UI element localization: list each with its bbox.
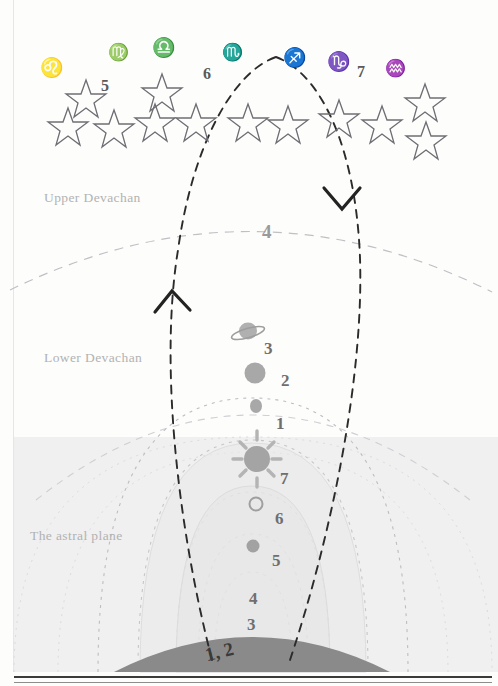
star [135, 104, 175, 141]
bottom-rule [14, 676, 492, 678]
upper-devachan-arc [10, 231, 492, 292]
star [362, 106, 402, 143]
zodiac-glyph-aquarius: ♒ [385, 60, 406, 77]
zodiac-glyph-virgo: ♍ [108, 44, 129, 61]
body-number-sun: 7 [280, 470, 289, 487]
upper-devachan-number-4: 4 [262, 222, 272, 241]
star [176, 104, 216, 141]
zodiac-glyph-scorpio: ♏ [222, 44, 243, 61]
zodiac-glyph-libra: ♎ [152, 38, 176, 57]
zodiac-glyph-sagittarius: ♐ [283, 48, 307, 67]
body-number-venus: 6 [275, 510, 284, 527]
plane-label-lower-devachan: Lower Devachan [44, 350, 142, 366]
plane-label-astral-plane: The astral plane [30, 528, 123, 544]
zodiac-number-6: 6 [203, 66, 211, 82]
zodiac-glyph-capricorn: ♑ [327, 52, 351, 71]
star [268, 106, 308, 143]
zodiac-glyph-leo: ♌ [40, 58, 64, 77]
saturn-icon [230, 323, 265, 343]
star [48, 108, 88, 145]
plane-label-upper-devachan: Upper Devachan [44, 190, 141, 206]
body-number-mercury: 5 [272, 552, 281, 569]
star [66, 80, 106, 117]
arc-layer [0, 0, 498, 686]
star [228, 104, 268, 141]
star [142, 74, 182, 111]
mercury-disc [247, 540, 260, 553]
diagram-page: Upper Devachan Lower Devachan The astral… [0, 0, 498, 686]
star [406, 122, 446, 159]
bottom-rule-secondary [14, 682, 492, 683]
star [319, 100, 359, 137]
body-number-mars: 1 [276, 415, 285, 432]
body-number-moon: 4 [249, 590, 258, 607]
zodiac-number-5: 5 [101, 78, 109, 94]
jupiter-disc [245, 363, 266, 384]
star [94, 110, 134, 147]
mars-disc [250, 399, 262, 413]
body-number-jupiter: 2 [281, 372, 290, 389]
body-number-saturn: 3 [264, 340, 273, 357]
zodiac-number-7: 7 [357, 64, 365, 80]
body-number-earth-3: 3 [247, 616, 256, 633]
star [405, 84, 445, 121]
